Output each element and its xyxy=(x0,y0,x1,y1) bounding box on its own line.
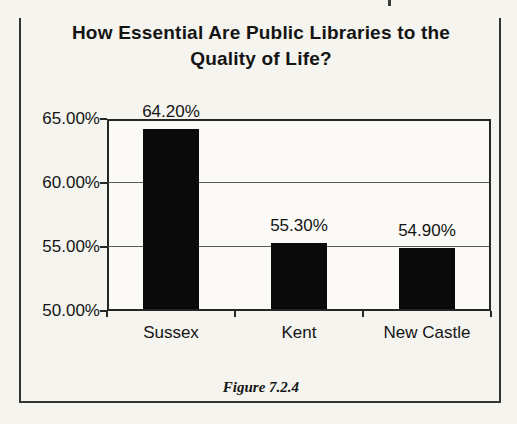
y-tick-mark xyxy=(100,182,107,184)
chart-title: How Essential Are Public Libraries to th… xyxy=(51,20,471,72)
bar-new-castle xyxy=(399,248,455,309)
bar-value-label-new-castle: 54.90% xyxy=(382,222,472,240)
bar-value-label-kent: 55.30% xyxy=(254,217,344,235)
y-tick-mark xyxy=(100,246,107,248)
y-tick-label: 65.00% xyxy=(28,110,100,128)
bar-sussex xyxy=(143,129,199,309)
bar-value-label-sussex: 64.20% xyxy=(126,103,216,121)
x-tick-mark xyxy=(234,311,236,317)
y-tick-label: 60.00% xyxy=(28,174,100,192)
x-category-label-kent: Kent xyxy=(239,324,359,342)
x-tick-mark xyxy=(490,311,492,317)
y-tick-label: 50.00% xyxy=(28,302,100,320)
x-tick-mark xyxy=(362,311,364,317)
x-category-label-sussex: Sussex xyxy=(111,324,231,342)
x-category-label-new-castle: New Castle xyxy=(367,324,487,342)
chart-title-line-1: How Essential Are Public Libraries to th… xyxy=(51,20,471,46)
y-tick-label: 55.00% xyxy=(28,238,100,256)
figure-caption: Figure 7.2.4 xyxy=(131,379,391,396)
x-tick-mark xyxy=(106,311,108,317)
chart-title-line-2: Quality of Life? xyxy=(51,46,471,72)
y-tick-mark xyxy=(100,118,107,120)
bar-kent xyxy=(271,243,327,309)
scanned-chart-page: How Essential Are Public Libraries to th… xyxy=(0,0,517,424)
scan-artifact-mark xyxy=(388,0,391,6)
